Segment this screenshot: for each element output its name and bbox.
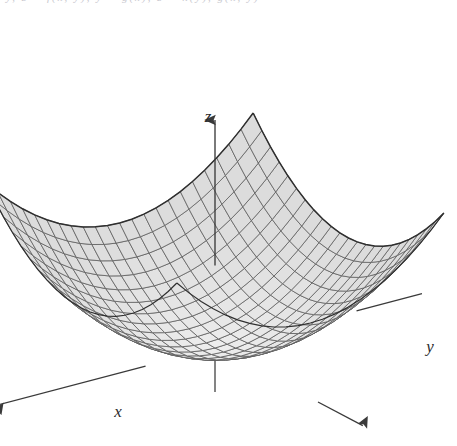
axis-label-y: y xyxy=(424,337,434,356)
surface-plot-figure: x y z xyxy=(0,0,457,446)
paraboloid-surface-mesh xyxy=(0,113,444,360)
axis-label-z: z xyxy=(204,107,212,126)
axis-x-positive xyxy=(0,366,146,405)
axis-y-positive xyxy=(318,402,363,426)
axis-label-x: x xyxy=(113,402,122,421)
